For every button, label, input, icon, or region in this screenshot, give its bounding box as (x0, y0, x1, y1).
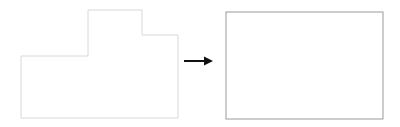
diagram-canvas (0, 0, 400, 127)
target-rectangle (226, 12, 383, 119)
arrow-right-icon (184, 57, 213, 66)
source-stepped-shape (21, 10, 178, 118)
